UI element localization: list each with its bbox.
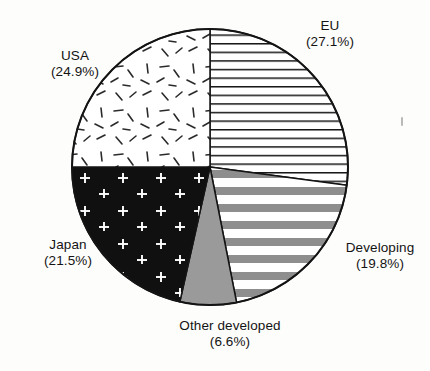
slice-label-japan-name: Japan bbox=[44, 237, 92, 253]
slice-label-eu-name: EU bbox=[306, 18, 354, 34]
slice-label-developing: Developing (19.8%) bbox=[346, 240, 415, 272]
slice-label-usa-name: USA bbox=[51, 48, 99, 64]
slice-label-other-developed: Other developed (6.6%) bbox=[179, 318, 280, 350]
slice-label-japan-value: (21.5%) bbox=[44, 253, 92, 269]
slice-label-japan: Japan (21.5%) bbox=[44, 237, 92, 269]
slice-label-other-developed-value: (6.6%) bbox=[179, 334, 280, 350]
slice-label-developing-name: Developing bbox=[346, 240, 415, 256]
pie-slices bbox=[72, 29, 348, 305]
slice-label-eu-value: (27.1%) bbox=[306, 34, 354, 50]
slice-label-usa-value: (24.9%) bbox=[51, 64, 99, 80]
slice-label-eu: EU (27.1%) bbox=[306, 18, 354, 50]
slice-label-developing-value: (19.8%) bbox=[346, 256, 415, 272]
slice-label-usa: USA (24.9%) bbox=[51, 48, 99, 80]
pie-slice-eu[interactable] bbox=[210, 29, 348, 185]
scan-speck bbox=[401, 117, 403, 126]
slice-label-other-developed-name: Other developed bbox=[179, 318, 280, 334]
